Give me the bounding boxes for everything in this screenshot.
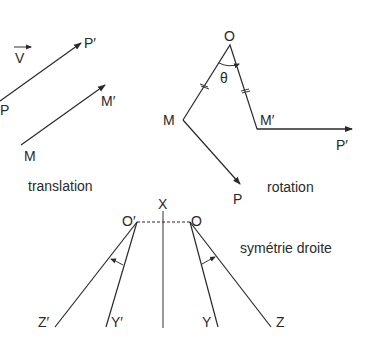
label-m: M [24,148,36,164]
line-symmetry-figure: X O′ O Z′ Y′ Y Z symétrie droite [38,196,332,330]
label-z: Z [276,314,285,330]
arrow-p-to-p-prime [0,43,81,101]
vector-v-label: V [15,50,25,66]
caption-line-symmetry: symétrie droite [240,240,332,256]
label-p: P [0,102,9,118]
caption-rotation: rotation [267,179,314,195]
arrow-m-to-m-prime [21,85,105,145]
ray-o-prime-y-prime [106,222,137,327]
label-m: M [163,112,175,128]
label-y-prime: Y′ [111,314,123,330]
angle-arc-right-icon [202,257,215,264]
caption-translation: translation [28,178,93,194]
label-o: O [191,213,202,229]
label-p: P [233,191,242,207]
ray-o-y [190,222,218,327]
label-o: O [224,28,235,44]
label-x-axis: X [158,196,168,212]
label-p-prime: P′ [84,35,96,51]
label-m-prime: M′ [101,93,116,109]
angle-arc-left-icon [111,259,123,265]
label-theta: θ [220,70,228,86]
arrow-m-to-p [183,120,240,184]
ray-o-prime-z-prime [55,222,137,327]
label-y: Y [202,314,212,330]
label-z-prime: Z′ [38,314,50,330]
label-p-prime: P′ [336,137,348,153]
tick-mark-om-prime [242,91,250,93]
rotation-figure: O θ M M′ P′ P rotation [163,28,352,207]
ray-o-z [190,222,271,327]
transformations-diagram: V P′ P M′ M translation O θ M M′ P′ P ro… [0,0,370,341]
label-m-prime: M′ [260,112,275,128]
translation-figure: V P′ P M′ M translation [0,35,116,194]
